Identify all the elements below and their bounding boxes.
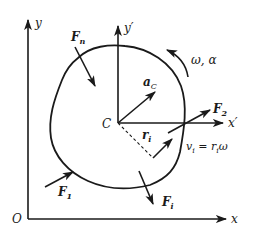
- rigid-body-diagram: O y x C y′ x′ Fn aC ω, α F2 ri vi = riω: [0, 0, 256, 242]
- rotation-arc-arrow: [167, 50, 188, 77]
- y-axis-label: y: [34, 16, 42, 30]
- c-label: C: [102, 117, 111, 131]
- velocity-arrow: [153, 139, 172, 158]
- origin-label: O: [12, 212, 22, 226]
- fixed-frame: O y x: [12, 16, 238, 226]
- x-prime-label: x′: [228, 116, 238, 130]
- force-fi: Fi: [139, 171, 174, 211]
- force-f2-label: F2: [212, 102, 228, 118]
- force-fn: Fn: [70, 30, 95, 86]
- force-fn-label: Fn: [70, 30, 86, 46]
- velocity-equation: vi = riω: [186, 140, 228, 155]
- acceleration-label: aC: [143, 75, 157, 91]
- force-f1-label: F1: [57, 185, 72, 201]
- radius-label: ri: [142, 128, 151, 144]
- force-fi-label: Fi: [161, 195, 174, 211]
- radius-ri: ri vi = riω: [118, 123, 228, 158]
- x-axis-label: x: [231, 212, 238, 226]
- force-f2-arrow: [168, 110, 210, 133]
- rotation-label: ω, α: [191, 53, 217, 67]
- x-prime-mark: ′: [235, 116, 238, 130]
- force-f1: F1: [45, 172, 73, 201]
- y-prime-label: y′: [123, 21, 134, 35]
- acceleration-arrow: [118, 92, 155, 123]
- force-f2: F2: [168, 102, 228, 133]
- acceleration-ac: aC: [118, 75, 157, 123]
- y-prime-mark: ′: [131, 21, 134, 35]
